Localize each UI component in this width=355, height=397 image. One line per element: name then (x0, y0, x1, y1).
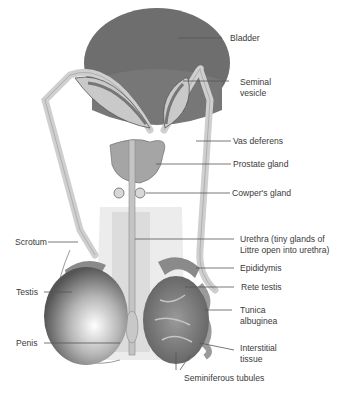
label-interstitial-tissue: Interstitial tissue (240, 343, 277, 364)
anatomy-illustration (0, 0, 355, 397)
label-seminal-vesicle: Seminal vesicle (240, 77, 271, 98)
label-testis: Testis (16, 287, 38, 298)
label-prostate-gland: Prostate gland (233, 159, 288, 170)
label-epididymis: Epididymis (240, 263, 282, 274)
label-tunica-albuginea: Tunica albuginea (240, 305, 277, 326)
label-urethra: Urethra (tiny glands of Littre open into… (240, 234, 329, 255)
label-penis: Penis (16, 338, 38, 349)
cowpers-gland-left (114, 188, 124, 198)
label-scrotum: Scrotum (15, 237, 47, 248)
testis-left (44, 267, 128, 365)
label-bladder: Bladder (230, 33, 260, 44)
cowpers-gland-right (135, 188, 145, 198)
label-rete-testis: Rete testis (241, 282, 282, 293)
label-vas-deferens: Vas deferens (233, 136, 283, 147)
prostate-shape (110, 140, 165, 183)
label-seminiferous-tubules: Seminiferous tubules (184, 373, 264, 384)
label-cowpers-gland: Cowper's gland (232, 188, 291, 199)
